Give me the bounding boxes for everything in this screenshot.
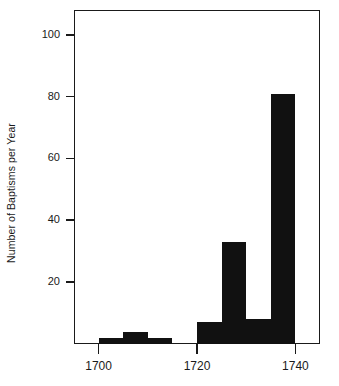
- y-axis-tick: [66, 34, 75, 36]
- y-axis-tick: [66, 219, 75, 221]
- y-axis-title: Number of Baptisms per Year: [0, 0, 22, 386]
- bar: [123, 332, 148, 344]
- bar: [99, 338, 124, 344]
- x-axis-tick-label: 1740: [265, 360, 325, 372]
- x-axis-tick-label: 1720: [167, 360, 227, 372]
- y-axis-tick: [66, 281, 75, 283]
- x-axis-tick: [196, 344, 198, 354]
- bar: [148, 338, 173, 344]
- y-axis-tick-label: 60: [20, 152, 60, 163]
- y-axis-tick-label: 80: [20, 91, 60, 102]
- y-axis-tick-label: 40: [20, 214, 60, 225]
- x-axis-tick: [295, 344, 297, 354]
- x-axis-tick-label: 1700: [69, 360, 129, 372]
- bar: [197, 322, 222, 344]
- y-axis-tick: [66, 158, 75, 160]
- histogram-figure: Number of Baptisms per Year 204060801001…: [0, 0, 339, 386]
- bar: [246, 319, 271, 344]
- y-axis-tick-label: 100: [20, 29, 60, 40]
- bar: [222, 242, 247, 344]
- y-axis-tick: [66, 96, 75, 98]
- x-axis-tick: [98, 344, 100, 354]
- bars-group: [74, 10, 320, 344]
- bar: [271, 94, 296, 345]
- y-axis-tick-label: 20: [20, 276, 60, 287]
